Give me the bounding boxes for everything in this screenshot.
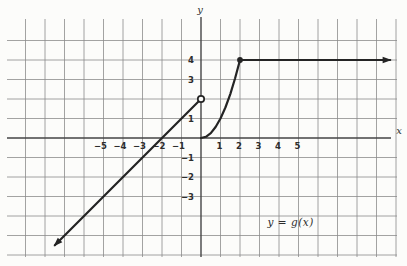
open-circle-endpoint xyxy=(198,96,204,102)
curve-equation-label: y = g(x) xyxy=(267,216,314,228)
y-tick-label: −2 xyxy=(181,172,194,182)
y-tick-label: −1 xyxy=(181,153,194,163)
x-tick-label: −4 xyxy=(113,141,126,151)
graph-background xyxy=(0,0,407,266)
x-tick-label: 3 xyxy=(256,141,262,151)
y-tick-label: −3 xyxy=(181,192,194,202)
graph-page: −5−4−3−2−112345431−1−2−3 y x y = g(x) xyxy=(0,0,407,266)
x-tick-label: −1 xyxy=(172,141,185,151)
function-graph: −5−4−3−2−112345431−1−2−3 y x y = g(x) xyxy=(0,0,407,266)
x-tick-label: 4 xyxy=(275,141,281,151)
y-tick-label: 4 xyxy=(188,55,194,65)
y-axis-label: y xyxy=(196,4,203,15)
x-tick-label: −5 xyxy=(94,141,107,151)
x-tick-label: −3 xyxy=(133,141,146,151)
y-tick-label: 3 xyxy=(188,75,194,85)
x-tick-label: 1 xyxy=(217,141,223,151)
x-tick-label: 5 xyxy=(295,141,301,151)
y-tick-label: 1 xyxy=(188,114,194,124)
x-tick-label: 2 xyxy=(236,141,242,151)
x-axis-label: x xyxy=(396,125,402,136)
